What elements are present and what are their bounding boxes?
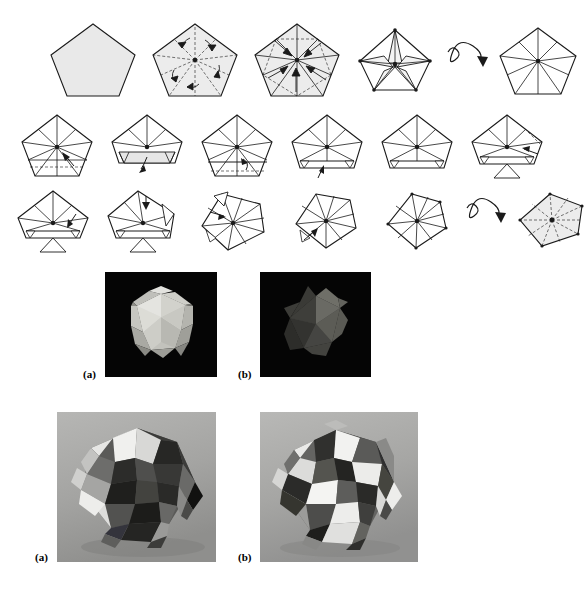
flip-over-arrow-icon <box>467 198 499 217</box>
photo-assembly-front-image <box>57 412 216 562</box>
center-dot-icon <box>550 218 555 223</box>
unfolded-flap-icon <box>494 164 520 178</box>
center-dot-icon <box>415 145 419 149</box>
center-dot-icon <box>231 221 235 225</box>
diagram-row-2 <box>0 110 459 182</box>
center-dot-icon <box>324 219 328 223</box>
photo-module-back-image <box>260 272 371 377</box>
diagram-step-collapse <box>252 18 342 100</box>
diagram-step-crease-pattern <box>150 18 240 100</box>
unfolded-flap-icon <box>130 238 156 252</box>
diagram-step-pinwheel <box>286 186 366 258</box>
photo-caption-bottom-a: (a) <box>35 552 48 563</box>
photo-assembly-back <box>260 412 418 562</box>
photo-assembly-front <box>57 412 216 562</box>
diagram-step-radial-ten <box>496 18 580 100</box>
flip-arrowhead-icon <box>495 212 506 223</box>
center-dot-icon <box>393 62 397 66</box>
center-dot-icon <box>55 145 59 149</box>
photo-module-back <box>260 272 371 377</box>
diagram-step-third-side <box>14 186 92 258</box>
photo-caption-top-b: (b) <box>238 369 251 380</box>
photo-caption-top-a: (a) <box>83 369 96 380</box>
diagram-step-fifth-side <box>194 186 274 258</box>
photo-module-front <box>105 272 217 377</box>
diagram-step-corner-tabs <box>288 110 366 182</box>
diagram-step-blank-pentagon <box>48 18 138 100</box>
diagram-step-finished-back <box>512 186 588 258</box>
diagram-step-fold-lower-edge <box>18 110 96 182</box>
diagram-step-band-fold <box>198 110 276 182</box>
diagram-row-3 <box>0 186 459 258</box>
pentagon-outline-icon <box>51 24 135 96</box>
diagram-step-turn-over-symbol <box>444 18 490 100</box>
flip-arrowhead-icon <box>477 56 488 67</box>
photo-module-front-image <box>105 272 217 377</box>
diagram-step-repeat-side <box>468 110 550 182</box>
center-dot-icon <box>145 145 149 149</box>
diagram-step-finished-front <box>378 186 456 258</box>
center-dot-icon <box>325 145 329 149</box>
center-dot-icon <box>536 59 540 63</box>
photo-caption-bottom-b: (b) <box>238 552 251 563</box>
center-dot-icon <box>295 58 299 62</box>
diagram-row-1 <box>0 18 459 100</box>
center-dot-icon <box>51 221 55 225</box>
center-dot-icon <box>235 145 239 149</box>
diagram-step-fourth-side <box>104 186 182 258</box>
diagram-step-turn-over-symbol-2 <box>464 186 508 258</box>
center-dot-icon <box>141 221 145 225</box>
diagram-step-flap-pull <box>108 110 186 182</box>
diagram-step-tabs-set <box>378 110 456 182</box>
photo-assembly-back-image <box>260 412 418 562</box>
flip-over-arrow-icon <box>448 42 481 61</box>
center-dot-icon <box>505 145 509 149</box>
diagram-step-star-collapsed <box>356 18 434 100</box>
center-dot-icon <box>193 58 197 62</box>
center-dot-icon <box>415 219 419 223</box>
unfolded-flap-icon <box>40 238 66 252</box>
